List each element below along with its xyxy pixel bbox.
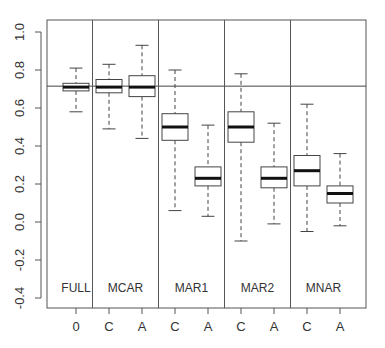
box-mnar-c — [294, 104, 320, 231]
group-label-mar1: MAR1 — [175, 281, 209, 295]
box-mar2-a — [261, 123, 287, 224]
box-mcar-a — [129, 45, 155, 138]
boxplot-chart: -0.4-0.20.00.20.40.60.81.0 FULLMCARMAR1M… — [0, 0, 385, 348]
x-tick-label: C — [170, 319, 179, 334]
y-tick-label: 0.0 — [12, 213, 27, 231]
box-mcar-c — [96, 64, 122, 129]
x-tick-label: 0 — [72, 319, 79, 334]
x-tick-label: C — [104, 319, 113, 334]
group-label-full: FULL — [61, 281, 91, 295]
x-tick-label: C — [302, 319, 311, 334]
y-tick-label: -0.2 — [12, 249, 27, 271]
y-tick-label: 0.6 — [12, 99, 27, 117]
y-tick-label: -0.4 — [12, 287, 27, 309]
box-full-0 — [63, 68, 89, 112]
x-tick-label: A — [270, 319, 279, 334]
box-mar2-c — [228, 74, 254, 241]
y-tick-label: 0.2 — [12, 175, 27, 193]
x-tick-label: A — [138, 319, 147, 334]
group-label-mar2: MAR2 — [241, 281, 275, 295]
y-tick-label: 0.8 — [12, 61, 27, 79]
box-mar1-a — [195, 125, 221, 216]
x-tick-label: A — [336, 319, 345, 334]
y-tick-label: 1.0 — [12, 23, 27, 41]
box-mnar-a — [327, 154, 353, 226]
y-tick-label: 0.4 — [12, 137, 27, 155]
group-label-mcar: MCAR — [108, 281, 144, 295]
x-tick-label: A — [204, 319, 213, 334]
group-label-mnar: MNAR — [306, 281, 342, 295]
plot-area: FULLMCARMAR1MAR2MNAR — [47, 20, 366, 308]
x-tick-label: C — [236, 319, 245, 334]
box-mar1-c — [162, 70, 188, 211]
x-axis: 0CACACACA — [72, 308, 344, 334]
y-axis: -0.4-0.20.00.20.40.60.81.0 — [12, 23, 41, 309]
